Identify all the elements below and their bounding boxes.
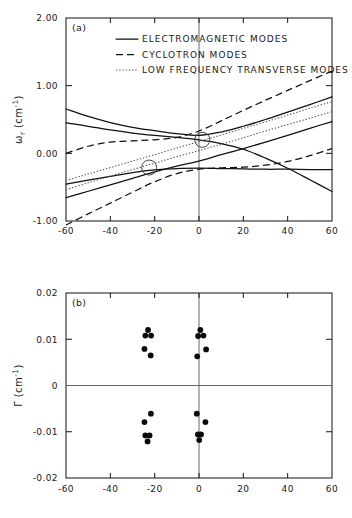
data-point xyxy=(148,353,154,359)
data-point xyxy=(196,437,202,443)
panel-b-xticklabel: -40 xyxy=(102,484,118,494)
data-point xyxy=(194,411,200,417)
legend-label: LOW FREQUENCY TRANSVERSE MODES xyxy=(142,65,349,75)
panel-a-yticklabel: 2.00 xyxy=(36,13,58,23)
panel-a: -60-40-200204060-1.000.001.002.00(a)ELEC… xyxy=(11,13,349,236)
data-point xyxy=(195,333,201,339)
panel-b-ylabel: Γ (cm-1) xyxy=(11,364,24,407)
panel-a-yticklabel: 1.00 xyxy=(36,81,58,91)
panel-b-xticklabel: 60 xyxy=(326,484,338,494)
legend-label: ELECTROMAGNETIC MODES xyxy=(142,34,288,44)
panel-a-xticklabel: 0 xyxy=(196,226,202,236)
data-point xyxy=(201,333,207,339)
panel-b-yticklabel: 0.01 xyxy=(36,335,58,345)
scientific-figure: -60-40-200204060-1.000.001.002.00(a)ELEC… xyxy=(0,0,352,518)
panel-b-xticklabel: 0 xyxy=(196,484,202,494)
svg-text:Γ (cm-1): Γ (cm-1) xyxy=(11,364,24,407)
data-point xyxy=(198,432,204,438)
data-point xyxy=(142,419,148,425)
panel-b-yticklabel: 0.02 xyxy=(36,288,58,298)
panel-a-yticklabel: 0.00 xyxy=(36,149,58,159)
panel-a-label: (a) xyxy=(72,22,86,33)
panel-b-xticklabel: 20 xyxy=(237,484,249,494)
panel-a-xticklabel: 60 xyxy=(326,226,338,236)
panel-b-yticklabel: -0.01 xyxy=(33,427,58,437)
data-point xyxy=(148,411,154,417)
panel-a-xticklabel: 20 xyxy=(237,226,249,236)
data-point xyxy=(203,419,209,425)
panel-b-yticklabel: 0 xyxy=(52,381,58,391)
data-point xyxy=(197,327,203,333)
panel-b-xticklabel: -60 xyxy=(58,484,74,494)
data-point xyxy=(147,433,153,439)
panel-b-xticklabel: -20 xyxy=(147,484,163,494)
panel-b-label: (b) xyxy=(72,297,86,308)
data-point xyxy=(203,347,209,353)
data-point xyxy=(145,327,151,333)
figure-canvas: -60-40-200204060-1.000.001.002.00(a)ELEC… xyxy=(0,0,352,518)
data-point xyxy=(145,439,151,445)
mode-crossing-marker xyxy=(195,132,210,147)
mode-crossing-marker xyxy=(142,160,157,175)
panel-a-ylabel: ωr (cm-1) xyxy=(11,95,27,144)
panel-b-yticklabel: -0.02 xyxy=(33,473,58,483)
data-point xyxy=(194,353,200,359)
panel-b-xticklabel: 40 xyxy=(282,484,294,494)
panel-a-xticklabel: -20 xyxy=(147,226,163,236)
legend-label: CYCLOTRON MODES xyxy=(142,50,248,60)
panel-a-xticklabel: -40 xyxy=(102,226,118,236)
panel-b: -60-40-200204060-0.02-0.0100.010.02(b)Γ … xyxy=(11,288,338,494)
svg-text:ωr (cm-1): ωr (cm-1) xyxy=(11,95,27,144)
panel-a-xticklabel: -60 xyxy=(58,226,74,236)
data-point xyxy=(148,333,154,339)
panel-a-yticklabel: -1.00 xyxy=(33,216,58,226)
panel-a-xticklabel: 40 xyxy=(282,226,294,236)
data-point xyxy=(142,346,148,352)
data-point xyxy=(142,333,148,339)
